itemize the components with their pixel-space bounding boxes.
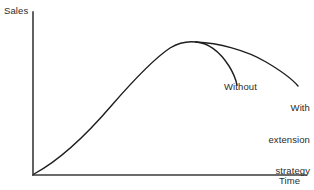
with-extension-line-3: strategy xyxy=(262,166,310,177)
product-life-cycle-figure: Sales Time Without With extension strate… xyxy=(0,0,314,190)
without-annotation-label: Without xyxy=(224,82,257,93)
with-extension-line-2: extension xyxy=(262,135,310,146)
y-axis-label: Sales xyxy=(4,6,28,17)
with-extension-curve xyxy=(196,42,298,86)
with-extension-annotation-label: With extension strategy xyxy=(262,82,310,190)
with-extension-line-1: With xyxy=(262,103,310,114)
without-extension-curve xyxy=(196,42,237,85)
growth-curve xyxy=(34,42,196,174)
